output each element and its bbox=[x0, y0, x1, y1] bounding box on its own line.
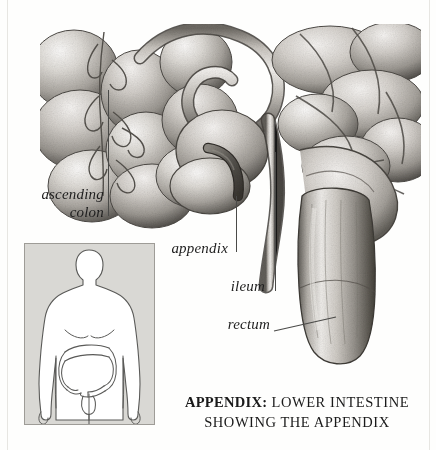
label-ascending-colon-line1: ascending bbox=[4, 186, 104, 204]
leader-line-rectum bbox=[270, 310, 342, 338]
label-rectum: rectum bbox=[180, 316, 270, 334]
leader-line-appendix bbox=[236, 196, 237, 252]
caption-line-1-rest: LOWER INTESTINE bbox=[267, 394, 409, 410]
inset-body-locator bbox=[24, 243, 155, 425]
label-ascending-colon-line2: colon bbox=[4, 204, 104, 222]
caption-line-2: SHOWING THE APPENDIX bbox=[163, 412, 431, 432]
label-ascending-colon: ascending colon bbox=[4, 186, 104, 221]
leader-line-ileum bbox=[275, 152, 276, 291]
figure-page: ascending colon appendix ileum rectum bbox=[0, 0, 436, 450]
caption-line-1: APPENDIX: LOWER INTESTINE bbox=[163, 392, 431, 412]
caption-term: APPENDIX: bbox=[185, 394, 267, 410]
figure-caption: APPENDIX: LOWER INTESTINE SHOWING THE AP… bbox=[163, 392, 431, 432]
leader-line-ascending-colon bbox=[108, 90, 109, 216]
cecum bbox=[170, 110, 268, 214]
label-ileum: ileum bbox=[180, 278, 265, 296]
